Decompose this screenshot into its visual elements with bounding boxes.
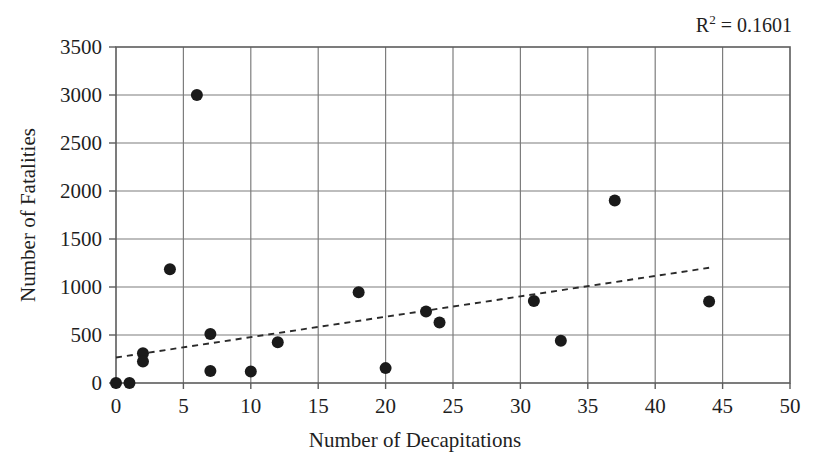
x-tick-label: 0 (111, 396, 122, 417)
y-tick-label: 500 (0, 325, 102, 346)
data-point (528, 295, 540, 307)
y-axis-title: Number of Fatalities (16, 128, 41, 302)
data-point (420, 305, 432, 317)
data-point (204, 365, 216, 377)
data-point (380, 362, 392, 374)
grid-lines (116, 47, 790, 383)
x-tick-label: 15 (308, 396, 329, 417)
x-tick-label: 10 (240, 396, 261, 417)
scatter-chart: 0500100015002000250030003500 05101520253… (0, 0, 830, 470)
x-tick-label: 25 (443, 396, 464, 417)
r-squared-label: R (696, 14, 709, 36)
y-tick-label: 3000 (0, 85, 102, 106)
r-squared-value: = 0.1601 (716, 14, 792, 36)
plot-canvas (0, 0, 830, 470)
data-point (434, 317, 446, 329)
trendline (116, 268, 709, 358)
data-point (164, 263, 176, 275)
x-axis-title: Number of Decapitations (0, 428, 830, 453)
data-point (272, 336, 284, 348)
x-tick-label: 30 (510, 396, 531, 417)
x-tick-label: 45 (712, 396, 733, 417)
data-point (204, 328, 216, 340)
data-point (353, 286, 365, 298)
trendline-path (116, 268, 709, 358)
x-tick-label: 5 (178, 396, 189, 417)
x-tick-label: 40 (645, 396, 666, 417)
y-tick-label: 3500 (0, 37, 102, 58)
data-point (191, 89, 203, 101)
data-point (123, 377, 135, 389)
r-squared-annotation: R2 = 0.1601 (696, 12, 792, 37)
data-point (110, 377, 122, 389)
data-point (137, 355, 149, 367)
data-point (245, 365, 257, 377)
x-tick-label: 35 (577, 396, 598, 417)
x-tick-label: 50 (780, 396, 801, 417)
data-point (703, 295, 715, 307)
y-tick-label: 0 (0, 373, 102, 394)
r-squared-exponent: 2 (709, 12, 716, 27)
data-point (555, 335, 567, 347)
data-point (609, 195, 621, 207)
x-tick-label: 20 (375, 396, 396, 417)
